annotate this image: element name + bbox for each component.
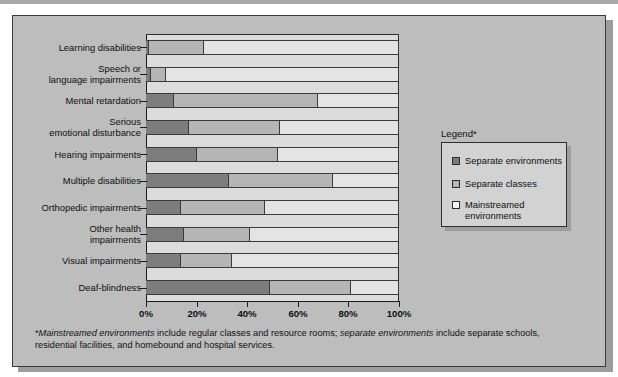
y-axis-tick xyxy=(140,208,147,209)
legend-item[interactable]: Mainstreamed environments xyxy=(452,200,524,221)
category-label: Speech or language impairments xyxy=(19,63,141,85)
bar-segment-separate-environments xyxy=(146,120,189,135)
footnote-term-mainstreamed: Mainstreamed environments xyxy=(39,328,155,338)
bar-segment-separate-environments xyxy=(146,280,270,295)
y-axis-tick xyxy=(140,74,147,75)
legend-item-label: Separate classes xyxy=(465,179,537,190)
category-label: Other health impairments xyxy=(19,223,141,245)
y-axis-tick xyxy=(140,101,147,102)
bar-segment-mainstreamed-environments xyxy=(278,147,399,162)
x-axis-tick-label: 0% xyxy=(139,308,153,319)
x-axis-tick-label: 40% xyxy=(237,308,256,319)
y-axis-tick xyxy=(140,288,147,289)
x-axis-tick-label: 60% xyxy=(288,308,307,319)
legend-swatch-icon xyxy=(452,201,460,209)
category-label: Multiple disabilities xyxy=(19,175,141,186)
bar-segment-separate-classes xyxy=(174,93,318,108)
bar-segment-separate-environments xyxy=(146,227,184,242)
legend-item[interactable]: Separate classes xyxy=(452,179,537,190)
figure-page: Learning disabilitiesSpeech or language … xyxy=(0,0,618,377)
chart-plot-area: 0%20%40%60%80%100% xyxy=(146,34,399,301)
category-label: Deaf-blindness xyxy=(19,282,141,293)
bar-segment-mainstreamed-environments xyxy=(280,120,399,135)
stacked-bar-row xyxy=(146,280,399,295)
bar-segment-separate-classes xyxy=(151,67,166,82)
bar-segment-mainstreamed-environments xyxy=(333,173,399,188)
bar-segment-mainstreamed-environments xyxy=(166,67,399,82)
y-axis-tick xyxy=(140,234,147,235)
category-label: Visual impairments xyxy=(19,255,141,266)
bar-segment-separate-environments xyxy=(146,200,181,215)
bar-segment-separate-classes xyxy=(181,253,232,268)
bar-segment-mainstreamed-environments xyxy=(204,40,399,55)
category-label: Hearing impairments xyxy=(19,149,141,160)
x-axis-tick xyxy=(348,302,349,307)
stacked-bar-row xyxy=(146,67,399,82)
stacked-bar-row xyxy=(146,227,399,242)
stacked-bar-row xyxy=(146,40,399,55)
bar-segment-separate-environments xyxy=(146,173,229,188)
bar-segment-separate-classes xyxy=(184,227,250,242)
category-label: Serious emotional disturbance xyxy=(19,116,141,138)
y-axis-tick xyxy=(140,181,147,182)
bar-segment-mainstreamed-environments xyxy=(318,93,399,108)
x-axis-tick-label: 80% xyxy=(338,308,357,319)
x-axis-tick xyxy=(399,302,400,307)
x-axis-tick-label: 100% xyxy=(387,308,412,319)
bar-segment-separate-environments xyxy=(146,93,174,108)
x-axis-tick xyxy=(247,302,248,307)
category-axis-labels: Learning disabilitiesSpeech or language … xyxy=(17,34,141,301)
stacked-bar-row xyxy=(146,147,399,162)
footnote-term-separate: separate environments xyxy=(340,328,433,338)
bar-segment-separate-classes xyxy=(197,147,278,162)
bar-segment-separate-classes xyxy=(189,120,280,135)
bar-segment-separate-classes xyxy=(149,40,205,55)
stacked-bar-row xyxy=(146,120,399,135)
x-axis-tick xyxy=(146,302,147,307)
y-axis-tick xyxy=(140,127,147,128)
stacked-bar-row xyxy=(146,200,399,215)
category-label: Mental retardation xyxy=(19,95,141,106)
bar-segment-mainstreamed-environments xyxy=(351,280,399,295)
y-axis-tick xyxy=(140,47,147,48)
y-axis-tick xyxy=(140,154,147,155)
x-axis-tick xyxy=(298,302,299,307)
bar-segment-mainstreamed-environments xyxy=(265,200,399,215)
legend-swatch-icon xyxy=(452,180,460,188)
x-axis-tick xyxy=(197,302,198,307)
stacked-bar-row xyxy=(146,173,399,188)
legend-item-label: Mainstreamed environments xyxy=(465,200,524,221)
footnote: *Mainstreamed environments include regul… xyxy=(35,327,575,351)
legend-swatch-icon xyxy=(452,157,460,165)
category-label: Learning disabilities xyxy=(19,42,141,53)
legend-box: Separate environmentsSeparate classesMai… xyxy=(441,142,567,227)
bar-segment-mainstreamed-environments xyxy=(250,227,399,242)
legend-item[interactable]: Separate environments xyxy=(452,156,562,167)
footnote-text-1: include regular classes and resource roo… xyxy=(155,328,340,338)
x-axis-tick-label: 20% xyxy=(187,308,206,319)
bar-segment-mainstreamed-environments xyxy=(232,253,399,268)
y-axis-tick xyxy=(140,261,147,262)
bar-segment-separate-environments xyxy=(146,147,197,162)
legend-title: Legend* xyxy=(441,128,477,139)
bar-segment-separate-classes xyxy=(229,173,333,188)
stacked-bar-row xyxy=(146,93,399,108)
scan-top-white-band xyxy=(0,4,618,13)
bar-segment-separate-classes xyxy=(270,280,351,295)
bar-segment-separate-classes xyxy=(181,200,264,215)
figure-panel: Learning disabilitiesSpeech or language … xyxy=(12,15,606,367)
category-label: Orthopedic impairments xyxy=(19,202,141,213)
bar-segment-separate-environments xyxy=(146,253,181,268)
x-axis-line xyxy=(146,301,400,302)
legend-item-label: Separate environments xyxy=(465,156,562,167)
stacked-bar-row xyxy=(146,253,399,268)
